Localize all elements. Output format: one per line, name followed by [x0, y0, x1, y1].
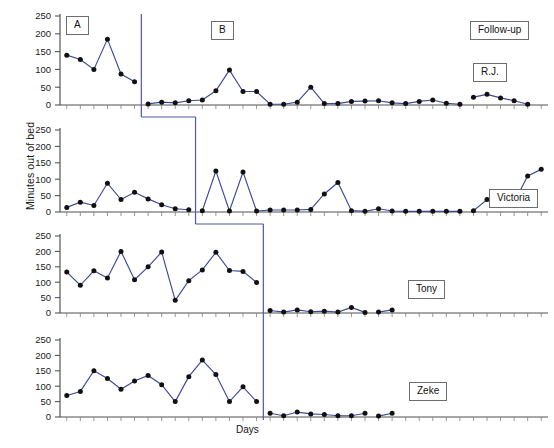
- x-axis-label: Days: [236, 424, 259, 435]
- svg-text:100: 100: [35, 381, 51, 392]
- svg-text:200: 200: [35, 141, 51, 152]
- svg-text:200: 200: [35, 246, 51, 257]
- svg-text:50: 50: [40, 292, 51, 303]
- figure-root: 0501001502002500501001502002500501001502…: [0, 0, 554, 448]
- subject-label-victoria: Victoria: [489, 189, 538, 208]
- svg-text:200: 200: [35, 350, 51, 361]
- subject-label-zeke: Zeke: [409, 382, 447, 401]
- svg-text:50: 50: [40, 396, 51, 407]
- subject-label-tony: Tony: [408, 280, 445, 299]
- svg-text:0: 0: [46, 411, 51, 422]
- svg-text:0: 0: [46, 307, 51, 318]
- svg-text:0: 0: [46, 206, 51, 217]
- svg-text:250: 250: [35, 230, 51, 241]
- svg-text:200: 200: [35, 28, 51, 39]
- y-axis-label: Minutes out of bed: [24, 96, 36, 236]
- svg-text:50: 50: [40, 190, 51, 201]
- svg-text:100: 100: [35, 64, 51, 75]
- svg-text:100: 100: [35, 174, 51, 185]
- svg-text:150: 150: [35, 261, 51, 272]
- svg-text:150: 150: [35, 157, 51, 168]
- phase-label-a: A: [66, 16, 89, 35]
- phase-label-b: B: [211, 21, 234, 40]
- svg-text:250: 250: [35, 10, 51, 21]
- svg-text:50: 50: [40, 82, 51, 93]
- svg-text:100: 100: [35, 277, 51, 288]
- multiple-baseline-chart: 0501001502002500501001502002500501001502…: [0, 0, 554, 448]
- phase-label-followup: Follow-up: [470, 21, 529, 40]
- svg-text:150: 150: [35, 46, 51, 57]
- subject-label-rj: R.J.: [473, 63, 507, 82]
- svg-text:250: 250: [35, 124, 51, 135]
- svg-text:0: 0: [46, 99, 51, 110]
- svg-text:150: 150: [35, 365, 51, 376]
- svg-text:250: 250: [35, 334, 51, 345]
